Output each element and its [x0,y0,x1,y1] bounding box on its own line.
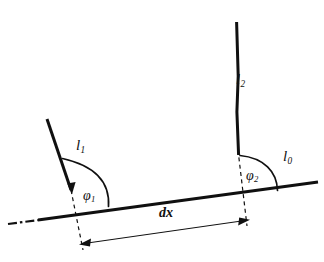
projector-right [238,150,247,226]
label-phi2-subscript: 2 [254,174,258,184]
diagram-svg [0,0,324,262]
label-phi1: φ1 [83,189,95,204]
label-phi2: φ2 [246,169,258,184]
label-l1-subscript: 1 [80,145,85,155]
dimension-arrowhead-left [79,239,91,247]
label-l2: l2 [236,72,245,89]
label-l0-subscript: 0 [287,156,292,166]
baseline-extension [8,220,39,224]
dimension-line-dx [84,221,245,244]
label-dx: dx [159,206,173,220]
projector-left [71,190,83,250]
label-phi1-symbol: φ [83,188,91,203]
label-l2-subscript: 2 [240,79,245,89]
label-l0: l0 [283,149,292,166]
dimension-arrowhead-right [238,218,250,226]
label-phi2-symbol: φ [246,168,254,183]
label-phi1-subscript: 1 [91,194,95,204]
diagram-canvas: l1 l2 l0 φ1 φ2 dx [0,0,324,262]
label-l1: l1 [76,138,85,155]
baseline-l0 [38,182,318,220]
line-l1 [47,119,71,190]
